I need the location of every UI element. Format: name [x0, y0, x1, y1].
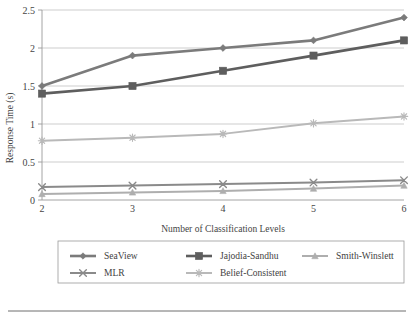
legend-items: SeaViewJajodia-SandhuSmith-WinslettMLRBe… [70, 251, 394, 278]
y-axis-title-text: Response Time (s) [5, 93, 16, 164]
y-tick-label: 1 [30, 119, 35, 130]
diamond-marker [401, 14, 408, 21]
square-marker [38, 90, 45, 97]
square-marker [310, 52, 317, 59]
chart-svg: Response Time (s) 2.5 2 1.5 1 0.5 0 [0, 0, 414, 320]
legend-label: Belief-Consistent [220, 268, 287, 278]
legend-label: SeaView [104, 251, 138, 261]
diamond-marker [220, 45, 227, 52]
x-tick-label: 5 [311, 203, 316, 214]
x-tick-label: 6 [402, 203, 407, 214]
square-marker [400, 37, 407, 44]
asterisk-marker [38, 137, 45, 144]
legend-label: Jajodia-Sandhu [220, 251, 279, 261]
x-tick-label: 3 [130, 203, 135, 214]
y-tick-label: 0 [30, 195, 35, 206]
square-marker [219, 67, 226, 74]
x-axis-title-text: Number of Classification Levels [161, 224, 285, 234]
y-tick-labels: 2.5 2 1.5 1 0.5 0 [23, 5, 36, 206]
x-tick-label: 2 [40, 203, 45, 214]
diamond-marker [310, 37, 317, 44]
y-axis-title: Response Time (s) [5, 93, 16, 164]
x-tick-labels: 2 3 4 5 6 [40, 203, 407, 214]
series-seaview [39, 14, 408, 89]
diamond-marker [39, 83, 46, 90]
square-marker [195, 252, 202, 259]
series-belief-consistent [38, 113, 407, 145]
y-tick-label: 0.5 [23, 157, 36, 168]
legend-label: MLR [104, 268, 125, 278]
line-chart: Response Time (s) 2.5 2 1.5 1 0.5 0 [0, 0, 414, 320]
square-marker [129, 82, 136, 89]
x-tick-label: 4 [221, 203, 226, 214]
asterisk-marker [310, 120, 317, 127]
legend-label: Smith-Winslett [336, 251, 394, 261]
y-tick-label: 2.5 [23, 5, 36, 16]
y-tick-label: 2 [30, 43, 35, 54]
asterisk-marker [400, 113, 407, 120]
diamond-marker [80, 253, 86, 259]
y-axis-ticks [38, 10, 42, 200]
asterisk-marker [219, 130, 226, 137]
y-tick-label: 1.5 [23, 81, 36, 92]
legend-item-belief-consistent[interactable]: Belief-Consistent [186, 268, 287, 278]
diamond-marker [129, 52, 136, 59]
legend-item-smith-winslett[interactable]: Smith-Winslett [302, 251, 394, 261]
legend-item-seaview[interactable]: SeaView [70, 251, 138, 261]
figure-container: Response Time (s) 2.5 2 1.5 1 0.5 0 [0, 0, 414, 320]
legend-item-mlr[interactable]: MLR [70, 268, 125, 278]
data-series-layer [38, 14, 407, 196]
asterisk-marker [195, 269, 202, 276]
legend-item-jajodia-sandhu[interactable]: Jajodia-Sandhu [186, 251, 279, 261]
asterisk-marker [129, 134, 136, 141]
